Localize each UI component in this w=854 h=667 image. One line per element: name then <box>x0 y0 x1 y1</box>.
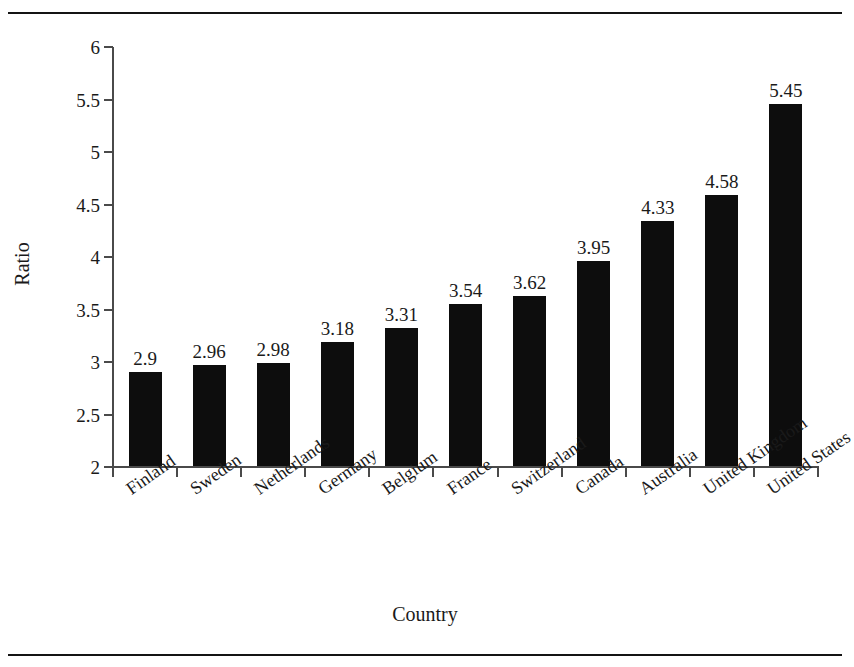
y-axis-tick-mark <box>104 256 113 258</box>
y-axis-tick-mark <box>104 46 113 48</box>
y-axis-tick-label: 3 <box>91 353 101 372</box>
bar <box>513 296 546 466</box>
y-axis-tick-mark <box>104 414 113 416</box>
bar-value-label: 3.31 <box>361 305 441 324</box>
x-axis-tick-mark <box>112 467 114 477</box>
y-axis-tick-label: 4.5 <box>76 195 100 214</box>
y-axis-title: Ratio <box>12 242 32 285</box>
y-axis-tick-label: 6 <box>91 38 101 57</box>
y-axis-tick-mark <box>104 309 113 311</box>
x-axis-tick-mark <box>497 467 499 477</box>
bar-value-label: 3.95 <box>554 238 634 257</box>
bar <box>257 363 290 466</box>
y-axis-tick-label: 3.5 <box>76 300 100 319</box>
bar <box>449 304 482 466</box>
y-axis-tick-label: 5.5 <box>76 90 100 109</box>
bar-value-label: 4.33 <box>618 198 698 217</box>
bar <box>769 104 802 466</box>
bar-value-label: 2.98 <box>233 340 313 359</box>
x-axis-title: Country <box>0 604 850 624</box>
plot-area: 22.533.544.555.56 2.92.962.983.183.313.5… <box>113 47 818 467</box>
top-horizontal-rule <box>8 12 842 14</box>
y-axis-tick-label: 5 <box>91 143 101 162</box>
y-axis-tick-label: 2.5 <box>76 405 100 424</box>
bar <box>129 372 162 467</box>
bar <box>705 195 738 466</box>
bar <box>193 365 226 466</box>
bar <box>641 221 674 466</box>
y-axis-tick-mark <box>104 151 113 153</box>
y-axis-tick-label: 4 <box>91 248 101 267</box>
bottom-horizontal-rule <box>8 654 842 656</box>
y-axis-tick-mark <box>104 204 113 206</box>
bar-value-label: 4.58 <box>682 172 762 191</box>
y-axis-tick-label: 2 <box>91 458 101 477</box>
bar <box>385 328 418 466</box>
bar-value-label: 5.45 <box>746 81 826 100</box>
y-axis-tick-mark <box>104 99 113 101</box>
bar-value-label: 3.62 <box>490 273 570 292</box>
bar <box>577 261 610 466</box>
